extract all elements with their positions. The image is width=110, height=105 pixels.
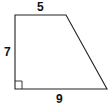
- trapezoid-diagram: [0, 0, 110, 105]
- left-side-label: 7: [4, 46, 11, 58]
- trapezoid-shape: [15, 15, 107, 89]
- top-side-label: 5: [37, 1, 44, 13]
- bottom-side-label: 9: [56, 93, 63, 105]
- right-angle-marker: [15, 81, 22, 89]
